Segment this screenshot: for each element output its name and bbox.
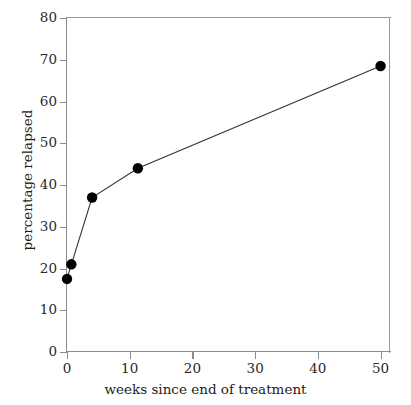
data-point-marker — [375, 61, 385, 71]
data-point-marker — [62, 274, 72, 284]
data-point-marker — [133, 163, 143, 173]
data-series-layer — [0, 0, 411, 405]
series-markers — [62, 61, 386, 284]
data-point-marker — [66, 259, 76, 269]
y-axis-label: percentage relapsed — [19, 90, 35, 270]
series-polyline — [67, 66, 381, 279]
x-axis-label: weeks since end of treatment — [0, 381, 411, 397]
relapse-line-chart: 01020304050607080 01020304050 weeks sinc… — [0, 0, 411, 405]
data-point-marker — [87, 192, 97, 202]
